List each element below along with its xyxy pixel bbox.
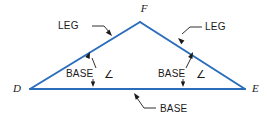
callout-leg-left-arrowhead [106,30,114,38]
callout-base-bottom-leader [137,98,156,108]
callout-base-angle-right-leader [186,58,191,68]
diagram-canvas: F D E LEG LEG BASE ∠ BASE ∠ [0,0,267,123]
callout-base-angle-left-leader [92,58,96,68]
callout-leg-right-leader [182,27,202,34]
callout-leg-right-label: LEG [205,21,226,32]
callout-base-angle-left-label: BASE [66,68,94,79]
isosceles-triangle-diagram: F D E LEG LEG BASE ∠ BASE ∠ [0,0,267,123]
base-angle-right-down-arrow [181,79,185,87]
base-angle-left-down-arrowhead [91,82,95,88]
vertex-label-e: E [251,82,259,94]
callout-base-bottom-arrowhead [132,92,140,100]
vertex-label-d: D [12,82,21,94]
triangle-shape [30,22,245,89]
callout-base-angle-right: BASE ∠ [158,51,206,81]
callout-leg-left-label: LEG [58,20,79,31]
callout-leg-left: LEG [58,20,114,38]
callout-base-bottom: BASE [132,92,188,114]
callout-leg-right: LEG [176,21,225,44]
callout-base-angle-right-label: BASE [158,68,186,79]
vertex-label-f: F [140,2,148,14]
base-angle-right-down-arrowhead [181,82,185,88]
angle-symbol-right-icon: ∠ [196,68,206,81]
base-angle-left-down-arrow [91,79,95,87]
callout-base-bottom-label: BASE [160,103,188,114]
callout-leg-right-arrowhead [176,36,184,44]
angle-symbol-left-icon: ∠ [104,68,114,81]
callout-base-angle-left: BASE ∠ [66,51,114,81]
